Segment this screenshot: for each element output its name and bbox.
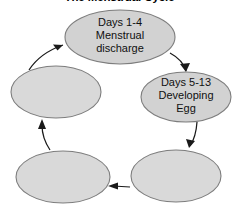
- node-menstrual-discharge-line-2: Menstrual: [96, 29, 144, 41]
- node-developing-egg-line-3: Egg: [176, 102, 196, 114]
- node-menstrual-discharge[interactable]: Days 1-4 Menstrual discharge: [65, 10, 175, 64]
- arrow-right-to-bottom-right: [186, 122, 197, 148]
- node-developing-egg-line-2: Developing: [158, 89, 213, 101]
- node-unlabeled-left[interactable]: [11, 66, 101, 118]
- arrow-bottom-left-to-left: [38, 119, 50, 150]
- node-menstrual-discharge-line-3: discharge: [96, 42, 144, 54]
- node-developing-egg[interactable]: Days 5-13 Developing Egg: [141, 72, 231, 122]
- arrow-top-to-right: [170, 53, 190, 72]
- arrow-head-bottom-right-to-bottom-left: [108, 183, 118, 190]
- node-unlabeled-bottom-left[interactable]: [16, 151, 110, 203]
- arrow-head-bottom-left-to-left: [38, 119, 46, 129]
- node-unlabeled-bottom-right[interactable]: [131, 150, 221, 202]
- menstrual-cycle-diagram: The Menstrual Cycle: [0, 0, 239, 209]
- node-menstrual-discharge-line-1: Days 1-4: [98, 16, 142, 28]
- arrow-head-left-to-top: [53, 45, 63, 51]
- arrow-head-top-to-right: [180, 63, 190, 72]
- arrow-bottom-right-to-bottom-left: [108, 183, 130, 190]
- node-developing-egg-line-1: Days 5-13: [161, 76, 211, 88]
- cycle-diagram-canvas: Days 5-13 Developing Egg Days 1-4 Menstr…: [0, 0, 239, 209]
